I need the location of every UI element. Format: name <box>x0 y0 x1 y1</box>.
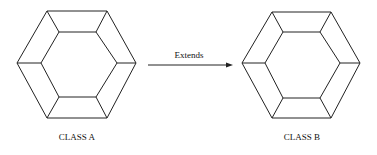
class-a-label: CLASS A <box>59 132 96 142</box>
class-a-inner-hexagon <box>41 32 117 97</box>
arrowhead-icon <box>226 63 233 68</box>
class-b-inner-hexagon <box>265 32 340 98</box>
class-b-outer-hexagon <box>242 12 360 118</box>
class-b-hexagon: CLASS B <box>242 12 360 142</box>
class-a-hexagon: CLASS A <box>17 11 136 142</box>
extends-arrow: Extends <box>148 50 233 68</box>
class-a-bevel-lines <box>17 11 136 118</box>
class-a-outer-hexagon <box>17 11 136 118</box>
class-b-label: CLASS B <box>284 132 320 142</box>
extends-label: Extends <box>175 50 204 60</box>
diagram-canvas: CLASS A Extends CLASS B <box>0 0 377 155</box>
class-b-bevel-lines <box>242 12 360 118</box>
